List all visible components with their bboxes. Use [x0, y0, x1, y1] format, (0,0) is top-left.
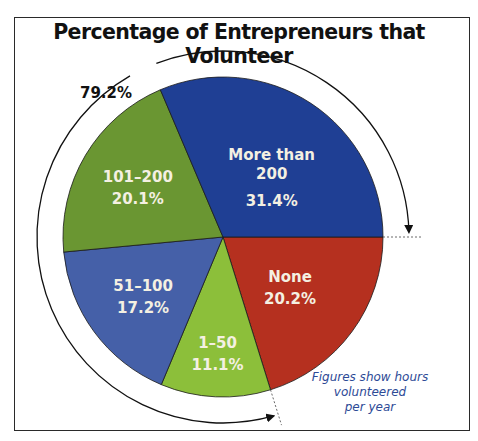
slice-value-text: 11.1% [192, 356, 244, 374]
slice-category-text: 200 [256, 165, 287, 183]
slice-category-text: More than [228, 146, 315, 164]
note-line-1: Figures show hours [305, 370, 435, 385]
note-line-3: per year [305, 400, 435, 415]
slice-value-text: 20.1% [112, 190, 164, 208]
slice-category-text: 101–200 [103, 168, 173, 186]
slice-category-text: 1–50 [198, 334, 237, 352]
dotted-guide-bottom [271, 390, 282, 425]
total-percentage-label: 79.2% [80, 84, 132, 102]
slice-value-text: 20.2% [264, 290, 316, 308]
slice-value-text: 31.4% [246, 192, 298, 210]
note-line-2: volunteered [305, 385, 435, 400]
slice-category-text: None [268, 268, 312, 286]
slice-value-text: 17.2% [117, 299, 169, 317]
hours-note: Figures show hours volunteered per year [305, 370, 435, 415]
slice-category-text: 51–100 [113, 277, 173, 295]
